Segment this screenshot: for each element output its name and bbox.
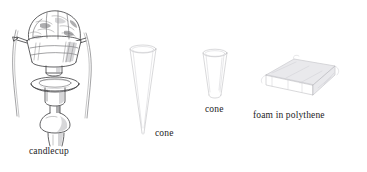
drawing-cone-tall [130,45,156,135]
figure-canvas: candlecup cone cone foam in polythene [0,0,367,172]
candlestick [31,77,79,146]
caption-cone-tall: cone [155,129,174,139]
drawing-foam-block [261,55,339,95]
candlecup-body [27,36,81,76]
drawing-cone-short [203,49,227,98]
caption-cone-short: cone [205,105,224,115]
caption-candlecup: candlecup [29,147,69,157]
candlecup-wrapping [28,11,80,41]
caption-foam-in-polythene: foam in polythene [253,111,325,121]
drawing-candlecup [13,11,92,146]
